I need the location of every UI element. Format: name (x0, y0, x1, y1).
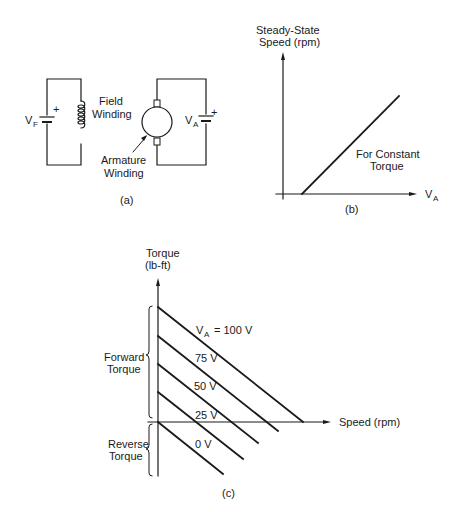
c-forward-label-1: Forward (104, 351, 144, 363)
b-annotation-2: Torque (370, 160, 404, 172)
panel-a-field-circuit (40, 79, 85, 165)
b-annotation-1: For Constant (356, 148, 420, 160)
figure-canvas: + V F Field Winding + V A Armature Windi… (0, 0, 463, 512)
c-label-100v-suffix: = 100 V (214, 324, 253, 336)
c-ylabel-2: (lb-ft) (145, 259, 171, 271)
c-label-50v: 50 V (194, 380, 217, 392)
panel-b-axes (276, 52, 417, 199)
armature-winding-label-2: Winding (104, 167, 144, 179)
panel-b-caption: (b) (345, 203, 358, 215)
c-reverse-label-1: Reverse (108, 438, 149, 450)
field-winding-label-2: Winding (92, 108, 132, 120)
c-reverse-brace (146, 424, 152, 476)
field-wire-bottom (47, 124, 81, 165)
armature-winding-label-1: Armature (101, 154, 146, 166)
brush-bottom (154, 138, 160, 145)
panel-a-caption: (a) (120, 194, 133, 206)
c-forward-label-2: Torque (107, 363, 141, 375)
panel-c-caption: (c) (222, 487, 235, 499)
c-line-0v (158, 422, 223, 474)
field-winding-coil-icon (78, 101, 85, 128)
armature-source-subscript: A (193, 120, 199, 129)
armature-pointer-arrowhead (141, 135, 147, 141)
c-forward-brace (146, 306, 152, 418)
c-label-0v: 0 V (195, 438, 212, 450)
armature-source-symbol: V (185, 114, 193, 126)
panel-a-armature-circuit (133, 79, 213, 165)
field-source-symbol: V (25, 114, 33, 126)
field-winding-label-1: Field (99, 95, 123, 107)
c-reverse-label-2: Torque (109, 450, 143, 462)
c-label-100v-sub: A (204, 330, 210, 339)
b-ylabel-1: Steady-State (256, 24, 320, 36)
armature-source-polarity: + (211, 106, 217, 118)
c-ylabel-1: Torque (146, 247, 180, 259)
brush-top (154, 100, 160, 107)
field-source-polarity: + (53, 103, 59, 115)
b-ylabel-2: Speed (rpm) (259, 36, 320, 48)
c-x-axis-arrowhead (323, 420, 331, 424)
c-xlabel: Speed (rpm) (339, 416, 400, 428)
c-label-100v-prefix: V (196, 324, 204, 336)
c-line-75v (158, 336, 278, 431)
b-speed-line (302, 96, 399, 194)
b-xlabel-symbol: V (425, 188, 433, 200)
motor-armature-icon (142, 107, 172, 137)
b-y-axis-arrowhead (281, 52, 285, 60)
b-x-axis-arrowhead (409, 192, 417, 196)
field-source-subscript: F (33, 120, 38, 129)
c-label-75v: 75 V (195, 352, 218, 364)
c-label-25v: 25 V (195, 409, 218, 421)
c-y-axis-arrowhead (156, 278, 160, 286)
b-xlabel-subscript: A (433, 194, 439, 203)
